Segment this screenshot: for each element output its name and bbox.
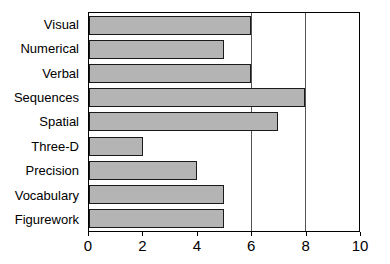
axis-tick xyxy=(251,232,252,236)
bar xyxy=(89,112,278,131)
category-label: Verbal xyxy=(42,67,79,80)
value-axis: 0246810 xyxy=(88,232,360,264)
bar-row xyxy=(89,158,359,182)
axis-tick xyxy=(88,232,89,236)
axis-tick-label: 4 xyxy=(193,237,201,254)
bar xyxy=(89,185,224,204)
category-label: Precision xyxy=(26,164,79,177)
category-label: Figurework xyxy=(15,213,79,226)
axis-tick-label: 0 xyxy=(84,237,92,254)
category-label-row: Figurework xyxy=(0,208,84,232)
bar-row xyxy=(89,134,359,158)
category-label-row: Sequences xyxy=(0,85,84,109)
bars-layer xyxy=(89,13,359,231)
axis-tick xyxy=(197,232,198,236)
category-label: Sequences xyxy=(14,91,79,104)
axis-tick-label: 10 xyxy=(352,237,369,254)
category-label: Three-D xyxy=(31,140,79,153)
category-label-row: Verbal xyxy=(0,61,84,85)
axis-tick-label: 2 xyxy=(138,237,146,254)
axis-tick-label: 6 xyxy=(247,237,255,254)
axis-tick xyxy=(142,232,143,236)
axis-tick-label: 8 xyxy=(301,237,309,254)
bar-chart: Visual Numerical Verbal Sequences Spatia… xyxy=(0,0,390,264)
bar xyxy=(89,40,224,59)
bar xyxy=(89,88,305,107)
category-label: Vocabulary xyxy=(15,189,79,202)
bar-row xyxy=(89,13,359,37)
bar-row xyxy=(89,61,359,85)
axis-tick xyxy=(306,232,307,236)
category-label-row: Vocabulary xyxy=(0,183,84,207)
axis-tick xyxy=(360,232,361,236)
bar xyxy=(89,161,197,180)
bar xyxy=(89,64,251,83)
category-label: Spatial xyxy=(39,115,79,128)
category-label: Visual xyxy=(44,18,79,31)
bar-row xyxy=(89,37,359,61)
bar-row xyxy=(89,110,359,134)
bar xyxy=(89,16,251,35)
category-label-row: Visual xyxy=(0,12,84,36)
category-label-row: Precision xyxy=(0,159,84,183)
category-axis-labels: Visual Numerical Verbal Sequences Spatia… xyxy=(0,12,84,232)
category-label: Numerical xyxy=(20,42,79,55)
bar xyxy=(89,137,143,156)
bar-row xyxy=(89,183,359,207)
bar-row xyxy=(89,86,359,110)
bar xyxy=(89,209,224,228)
plot-frame xyxy=(88,12,360,232)
category-label-row: Three-D xyxy=(0,134,84,158)
plot-inner xyxy=(89,13,359,231)
category-label-row: Numerical xyxy=(0,36,84,60)
bar-row xyxy=(89,207,359,231)
category-label-row: Spatial xyxy=(0,110,84,134)
